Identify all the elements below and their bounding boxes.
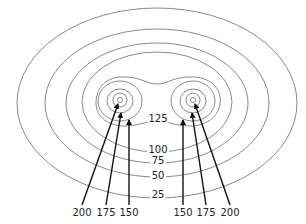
pointer-label-left-150: 150 — [119, 207, 138, 218]
pointer-label-right-200: 200 — [220, 207, 239, 218]
contour-100 — [82, 52, 232, 152]
label-125: 125 — [148, 113, 167, 124]
charge-right — [191, 98, 196, 103]
contour-diagram: 125 100 75 50 25 200 175 150 150 175 200 — [0, 0, 306, 224]
pointer-label-right-150: 150 — [173, 207, 192, 218]
arrow-left-175 — [106, 113, 121, 205]
label-25: 25 — [152, 189, 165, 200]
label-50: 50 — [152, 170, 165, 181]
contour-200-right — [186, 93, 200, 107]
pointer-label-right-175: 175 — [196, 207, 215, 218]
arrow-right-175 — [192, 113, 206, 205]
label-100: 100 — [148, 144, 167, 155]
contour-200-left — [113, 93, 127, 107]
label-75: 75 — [152, 155, 165, 166]
charge-left — [118, 98, 123, 103]
pointer-label-left-200: 200 — [72, 207, 91, 218]
pointer-label-left-175: 175 — [96, 207, 115, 218]
